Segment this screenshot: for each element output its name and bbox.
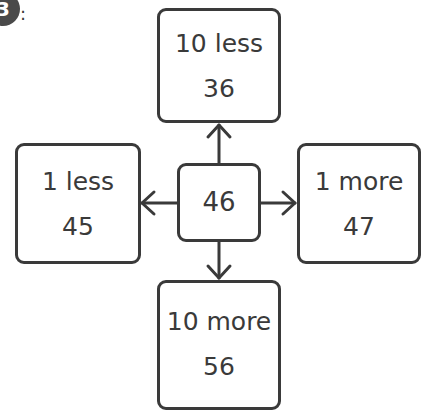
- box-one-more-value: 47: [343, 204, 375, 249]
- arrow-up-icon: [208, 125, 230, 163]
- box-ten-more: 10 more 56: [157, 280, 281, 410]
- box-one-more-label: 1 more: [315, 159, 404, 204]
- box-center: 46: [177, 163, 261, 242]
- arrow-right-icon: [261, 192, 295, 214]
- box-ten-less-value: 36: [203, 66, 235, 111]
- box-one-less: 1 less 45: [15, 143, 141, 264]
- box-center-value: 46: [202, 180, 235, 225]
- box-ten-more-value: 56: [203, 344, 235, 389]
- box-one-less-value: 45: [62, 204, 94, 249]
- box-one-more: 1 more 47: [297, 143, 421, 264]
- question-colon: :: [20, 4, 26, 24]
- box-ten-less: 10 less 36: [157, 8, 281, 123]
- arrow-left-icon: [142, 192, 177, 214]
- question-number-badge: 3: [0, 0, 20, 26]
- arrow-down-icon: [208, 242, 230, 278]
- box-one-less-label: 1 less: [42, 159, 114, 204]
- box-ten-less-label: 10 less: [175, 21, 263, 66]
- box-ten-more-label: 10 more: [167, 299, 272, 344]
